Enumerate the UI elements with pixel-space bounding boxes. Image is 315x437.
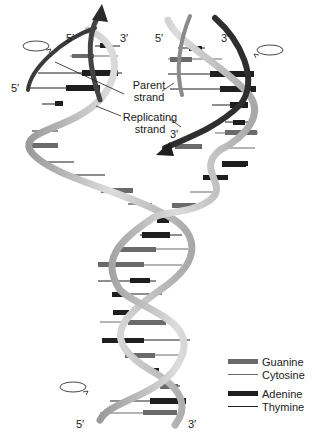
label-bottom-3prime: 3′ xyxy=(188,418,196,430)
rotation-arrow-top-left-icon xyxy=(23,41,51,53)
label-top-right-5prime: 5′ xyxy=(155,32,163,44)
label-top-left-5prime: 5′ xyxy=(66,32,74,44)
adenine-swatch xyxy=(228,391,258,396)
rotation-arrow-bottom-left-icon xyxy=(60,382,88,395)
thymine-swatch xyxy=(228,406,258,407)
backbones xyxy=(28,4,255,425)
callout-parent-strand: Parent strand xyxy=(124,79,174,103)
legend-item-cytosine: Cytosine xyxy=(228,368,313,381)
rotation-arrow-top-right-icon xyxy=(254,45,283,58)
cytosine-swatch xyxy=(228,374,258,375)
legend-item-thymine: Thymine xyxy=(228,400,313,413)
callout-replicating-strand: Replicating strand xyxy=(118,111,182,135)
guanine-swatch xyxy=(228,359,258,364)
label-bottom-5prime: 5′ xyxy=(76,418,84,430)
label-top-left-3prime: 3′ xyxy=(120,32,128,44)
replication-arrow-left xyxy=(92,4,108,22)
legend: Guanine Cytosine Adenine Thymine xyxy=(228,355,313,413)
label-left-5prime: 5′ xyxy=(11,82,19,94)
legend-item-guanine: Guanine xyxy=(228,355,313,368)
label-top-right-3prime: 3′ xyxy=(221,32,229,44)
legend-item-adenine: Adenine xyxy=(228,387,313,400)
